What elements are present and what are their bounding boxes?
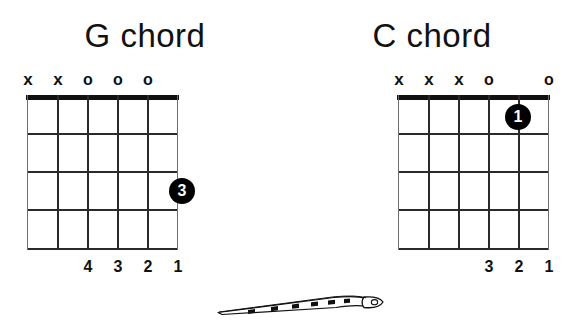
fret-line-1-g xyxy=(27,133,178,135)
fret-line-4-g xyxy=(27,248,178,250)
finger-dot-3-g: 3 xyxy=(169,178,195,204)
guitar-neck-icon xyxy=(216,286,386,324)
fretboard-diagram-g: x x o o o 3 xyxy=(27,70,179,278)
string-marker-4-g: o xyxy=(109,70,127,90)
finger-number-4-c: 3 xyxy=(479,256,499,278)
finger-number-3-g: 4 xyxy=(78,256,98,278)
fretboard-diagram-c: x x x o o 1 xyxy=(398,70,550,278)
string-line-5-g xyxy=(147,95,149,250)
nut-g xyxy=(26,95,179,100)
string-marker-6-c: o xyxy=(540,70,558,90)
string-line-1-c xyxy=(398,95,399,250)
fret-line-3-g xyxy=(27,209,178,211)
fret-line-4-c xyxy=(398,248,549,250)
string-marker-5-g: o xyxy=(139,70,157,90)
string-line-3-g xyxy=(87,95,89,250)
string-line-2-g xyxy=(57,95,59,250)
fret-line-2-c xyxy=(398,171,549,173)
finger-number-4-g: 3 xyxy=(108,256,128,278)
string-line-2-c xyxy=(428,95,430,250)
string-marker-3-g: o xyxy=(79,70,97,90)
finger-number-5-c: 2 xyxy=(509,256,529,278)
string-marker-3-c: x xyxy=(450,70,468,90)
finger-number-5-g: 2 xyxy=(138,256,158,278)
finger-number-6-g: 1 xyxy=(168,256,188,278)
finger-number-row-g: 4 3 2 1 xyxy=(27,256,179,278)
string-marker-6-g xyxy=(169,70,187,90)
chord-card-g: G chord x x o o o xyxy=(0,0,290,290)
open-mute-marker-row-g: x x o o o xyxy=(27,70,179,94)
string-line-3-c xyxy=(458,95,460,250)
finger-dot-1-c: 1 xyxy=(505,104,531,130)
string-marker-5-c xyxy=(510,70,528,90)
fret-grid-c: 1 xyxy=(398,95,549,250)
string-marker-1-g: x xyxy=(19,70,37,90)
string-marker-2-g: x xyxy=(49,70,67,90)
string-marker-1-c: x xyxy=(390,70,408,90)
finger-number-6-c: 1 xyxy=(539,256,559,278)
fret-grid-g: 3 xyxy=(27,95,178,250)
string-marker-2-c: x xyxy=(420,70,438,90)
open-mute-marker-row-c: x x x o o xyxy=(398,70,550,94)
chord-title-c: C chord xyxy=(287,16,577,56)
chord-chart-page: G chord x x o o o xyxy=(0,0,577,324)
finger-number-row-c: 3 2 1 xyxy=(398,256,550,278)
string-marker-4-c: o xyxy=(480,70,498,90)
string-line-6-c xyxy=(548,95,549,250)
fret-line-2-g xyxy=(27,171,178,173)
fret-line-1-c xyxy=(398,133,549,135)
nut-c xyxy=(397,95,550,100)
string-line-6-g xyxy=(177,95,178,250)
fret-line-3-c xyxy=(398,209,549,211)
string-line-4-c xyxy=(488,95,490,250)
chord-card-c: C chord x x x o o xyxy=(287,0,577,290)
string-line-1-g xyxy=(27,95,28,250)
string-line-4-g xyxy=(117,95,119,250)
guitar-neck-illustration xyxy=(216,286,386,324)
